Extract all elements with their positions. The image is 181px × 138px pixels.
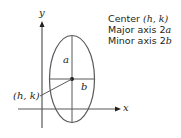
semi-minor-label: b <box>81 82 87 92</box>
semi-major-label: a <box>63 55 69 65</box>
x-axis-label: x <box>123 103 129 113</box>
legend: Center (h, k) Major axis 2a Minor axis 2… <box>108 13 172 46</box>
legend-center-math: (h, k) <box>143 13 168 24</box>
legend-major-text: Major axis 2 <box>108 24 166 35</box>
legend-center: Center (h, k) <box>108 13 172 24</box>
legend-major-math: a <box>166 24 172 35</box>
center-leader-line <box>40 79 72 96</box>
legend-minor-text: Minor axis 2 <box>108 35 166 46</box>
center-point-label: (h, k) <box>13 91 40 101</box>
y-axis-arrow-icon <box>40 21 45 27</box>
legend-minor-axis: Minor axis 2b <box>108 35 172 46</box>
legend-major-axis: Major axis 2a <box>108 24 172 35</box>
x-axis-arrow-icon <box>115 107 121 112</box>
legend-minor-math: b <box>166 35 172 46</box>
y-axis-label: y <box>39 8 45 18</box>
legend-center-text: Center <box>108 13 143 24</box>
